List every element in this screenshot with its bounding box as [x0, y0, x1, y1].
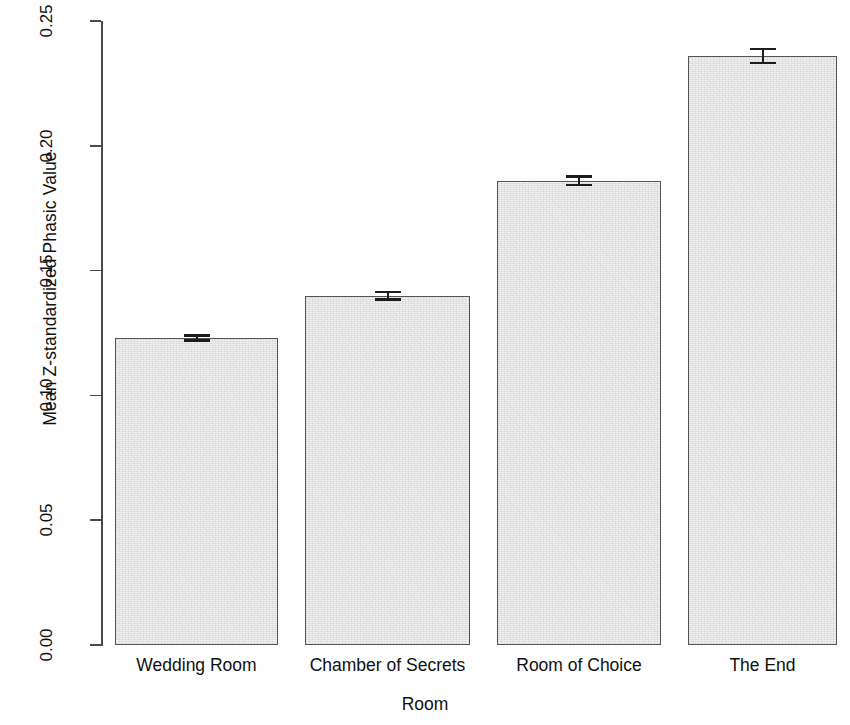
bar-3: [497, 181, 661, 645]
y-axis-tick-label: 0.10: [16, 385, 78, 405]
x-axis-tick-label-2: Chamber of Secrets: [305, 655, 470, 676]
error-bar-cap-bottom: [375, 298, 401, 301]
error-bar-cap-top: [375, 291, 401, 294]
y-axis-tick-label: 0.05: [16, 510, 78, 530]
x-axis-tick-label-4: The End: [688, 655, 837, 676]
error-bar-1: [184, 334, 210, 342]
error-bar-2: [375, 291, 401, 301]
y-axis-tick-label-text: 0.05: [37, 489, 57, 551]
bar-chart-figure: Mean Z-standardized Phasic Value 0.000.0…: [0, 0, 850, 725]
y-axis-tick: [90, 270, 101, 272]
bar-2: [305, 296, 470, 645]
y-axis-tick-label: 0.20: [16, 136, 78, 156]
y-axis-line: [101, 21, 103, 646]
y-axis-tick: [90, 644, 101, 646]
x-axis-title: Room: [0, 694, 850, 715]
y-axis-tick-label-text: 0.25: [37, 0, 57, 52]
y-axis-tick-label-text: 0.20: [37, 115, 57, 177]
y-axis-tick-label: 0.15: [16, 261, 78, 281]
y-axis-tick-label-text: 0.10: [37, 364, 57, 426]
error-bar-cap-top: [184, 334, 210, 337]
error-bar-cap-top: [566, 175, 592, 178]
error-bar-3: [566, 175, 592, 186]
y-axis-tick: [90, 519, 101, 521]
bar-4: [688, 56, 837, 645]
y-axis-tick-label: 0.25: [16, 11, 78, 31]
error-bar-cap-bottom: [566, 184, 592, 187]
x-axis-tick-label-1: Wedding Room: [115, 655, 278, 676]
error-bar-cap-bottom: [184, 339, 210, 342]
error-bar-cap-top: [750, 48, 776, 51]
bar-1: [115, 338, 278, 645]
error-bar-cap-bottom: [750, 62, 776, 65]
x-axis-tick-label-3: Room of Choice: [497, 655, 661, 676]
y-axis-tick: [90, 395, 101, 397]
y-axis-tick-label: 0.00: [16, 635, 78, 655]
y-axis-tick: [90, 20, 101, 22]
error-bar-4: [750, 48, 776, 65]
y-axis-tick-label-text: 0.15: [37, 240, 57, 302]
y-axis-tick: [90, 145, 101, 147]
y-axis-tick-label-text: 0.00: [37, 614, 57, 676]
